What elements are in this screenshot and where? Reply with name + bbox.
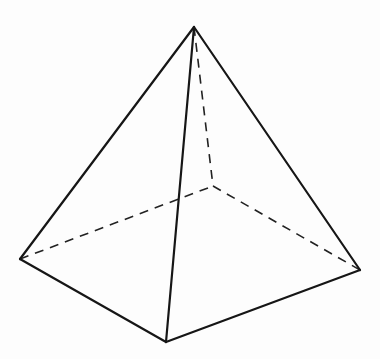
edge-apex-left bbox=[20, 27, 194, 259]
edge-left-front bbox=[20, 259, 166, 342]
edge-apex-right bbox=[194, 27, 360, 270]
edge-front-right bbox=[166, 270, 360, 342]
edge-back-right bbox=[213, 186, 360, 270]
visible-edges bbox=[20, 27, 360, 342]
edge-left-back bbox=[20, 186, 213, 259]
square-pyramid-diagram bbox=[0, 0, 380, 359]
edge-apex-front bbox=[166, 27, 194, 342]
